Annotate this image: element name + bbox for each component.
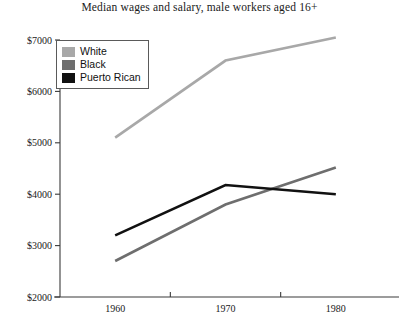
legend-swatch-black <box>62 60 75 70</box>
y-axis-tick-label: $7000 <box>27 35 52 46</box>
legend-label-black: Black <box>80 58 106 71</box>
y-axis-tick-label: $4000 <box>27 189 52 200</box>
legend-item-puerto-rican: Puerto Rican <box>62 71 141 84</box>
legend-item-black: Black <box>62 58 141 71</box>
y-axis-tick-label: $6000 <box>27 86 52 97</box>
y-axis-tick-label: $2000 <box>27 292 52 303</box>
x-axis-tick-label: 1980 <box>326 303 346 314</box>
y-axis-tick-label: $3000 <box>27 240 52 251</box>
series-line-black <box>115 167 336 261</box>
chart-legend: White Black Puerto Rican <box>56 40 149 89</box>
series-line-puerto-rican <box>115 185 336 235</box>
x-axis-tick-label: 1960 <box>105 303 125 314</box>
legend-label-white: White <box>80 45 107 58</box>
legend-swatch-puerto-rican <box>62 73 75 83</box>
y-axis-tick-label: $5000 <box>27 137 52 148</box>
chart-container: Median wages and salary, male workers ag… <box>0 0 399 328</box>
legend-swatch-white <box>62 47 75 57</box>
legend-label-puerto-rican: Puerto Rican <box>80 71 141 84</box>
legend-item-white: White <box>62 45 141 58</box>
x-axis-tick-label: 1970 <box>216 303 236 314</box>
